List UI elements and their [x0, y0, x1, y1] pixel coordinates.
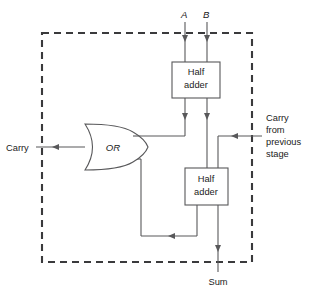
arrowhead-input-b [204, 35, 210, 42]
carry-in-label-line4: stage [266, 149, 289, 159]
input-b-label: B [203, 9, 210, 20]
half-adder-bottom-label-line2: adder [194, 187, 218, 197]
carry-in-label-line2: from [266, 125, 285, 135]
carry-in-label-line3: previous [266, 137, 301, 147]
full-adder-diagram: A B Half adder Half adder OR Carry Carry… [0, 0, 311, 295]
arrowhead-ha-top-sum [204, 113, 210, 120]
arrowhead-input-a [182, 35, 188, 42]
or-gate-label: OR [106, 142, 120, 153]
arrowhead-ha-bot-carry [168, 233, 175, 239]
arrowhead-ha-top-carry [182, 113, 188, 120]
arrowhead-carry-in [231, 133, 238, 139]
carry-out-label: Carry [6, 143, 29, 153]
half-adder-top-label-line1: Half [188, 67, 205, 77]
carry-in-label-line1: Carry [266, 113, 289, 123]
arrowhead-sum-out [215, 245, 221, 252]
sum-out-label: Sum [208, 277, 227, 287]
circuit-canvas: A B Half adder Half adder OR Carry Carry… [0, 0, 311, 295]
input-a-label: A [180, 9, 187, 20]
half-adder-top-label-line2: adder [184, 80, 208, 90]
arrowhead-carry-out [52, 144, 59, 150]
half-adder-bottom-label-line1: Half [198, 174, 215, 184]
